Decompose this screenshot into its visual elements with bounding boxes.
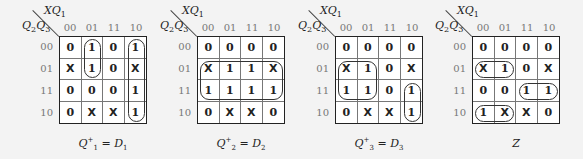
- kmap-cell: 0: [241, 37, 263, 59]
- kmap-cell: 1: [538, 80, 560, 102]
- kmap-grid: 0101X10X00010XX1: [59, 36, 147, 124]
- row-label: 10: [33, 107, 53, 118]
- kmap-cell: 0: [60, 102, 82, 124]
- kmap-cell: 0: [263, 102, 285, 124]
- row-variable-label: Q2Q3: [298, 19, 326, 34]
- column-label: 00: [472, 22, 494, 33]
- kmap-grid: 0000X11X11110XX0: [197, 36, 285, 124]
- kmap-cell: 0: [60, 37, 82, 59]
- kmap-caption: Q+1 = D1: [53, 136, 153, 152]
- column-variable-label: XQ1: [44, 4, 66, 19]
- kmap-cell: X: [336, 59, 358, 81]
- kmap-cell: 0: [516, 37, 538, 59]
- kmap-cell: X: [495, 102, 517, 124]
- column-label: 00: [335, 22, 357, 33]
- row-label: 01: [309, 63, 329, 74]
- kmap-cell: 0: [379, 59, 401, 81]
- row-label: 10: [309, 107, 329, 118]
- kmap-cell: 1: [263, 80, 285, 102]
- column-label: 11: [379, 22, 401, 33]
- kmap-cell: 1: [358, 80, 380, 102]
- kmap-cell: 1: [125, 80, 147, 102]
- kmap-cell: 1: [401, 102, 423, 124]
- kmap-cell: X: [220, 102, 242, 124]
- column-label: 01: [219, 22, 241, 33]
- kmap-cell: X: [538, 59, 560, 81]
- column-label: 11: [241, 22, 263, 33]
- kmap-cell: 0: [60, 80, 82, 102]
- kmap-cell: X: [60, 59, 82, 81]
- kmap-cell: 0: [336, 102, 358, 124]
- kmap-cell: 0: [198, 102, 220, 124]
- kmap-cell: 0: [495, 80, 517, 102]
- kmap-cell: 0: [495, 37, 517, 59]
- kmap-caption: Q+2 = D2: [191, 136, 291, 152]
- kmap-cell: X: [473, 59, 495, 81]
- kmap-cell: X: [263, 59, 285, 81]
- kmap-caption: Z: [466, 136, 566, 152]
- kmap-cell: X: [241, 102, 263, 124]
- row-label: 11: [309, 85, 329, 96]
- column-label: 00: [59, 22, 81, 33]
- kmap-cell: 0: [538, 102, 560, 124]
- column-label: 01: [494, 22, 516, 33]
- kmap-cell: 1: [336, 80, 358, 102]
- kmap-cell: 1: [125, 102, 147, 124]
- kmap-cell: 1: [198, 80, 220, 102]
- kmap-cell: 1: [401, 80, 423, 102]
- row-variable-label: Q2Q3: [160, 19, 188, 34]
- kmap-cell: 1: [516, 80, 538, 102]
- kmap-cell: 0: [358, 37, 380, 59]
- kmap-cell: 1: [220, 59, 242, 81]
- kmap-cell: 1: [241, 80, 263, 102]
- column-variable-label: XQ1: [457, 4, 479, 19]
- column-variable-label: XQ1: [320, 4, 342, 19]
- kmap-caption: Q+3 = D3: [329, 136, 429, 152]
- kmap-cell: 0: [336, 37, 358, 59]
- row-label: 01: [446, 63, 466, 74]
- column-label: 01: [357, 22, 379, 33]
- kmap-cell: 1: [82, 59, 104, 81]
- kmap-cell: 0: [516, 59, 538, 81]
- row-label: 01: [33, 63, 53, 74]
- kmap-cell: 1: [495, 59, 517, 81]
- row-label: 10: [446, 107, 466, 118]
- row-label: 11: [33, 85, 53, 96]
- kmap-cell: X: [516, 102, 538, 124]
- kmap-cell: X: [401, 59, 423, 81]
- column-label: 00: [197, 22, 219, 33]
- column-label: 01: [81, 22, 103, 33]
- kmap-cell: 0: [379, 80, 401, 102]
- kmap-cell: 0: [263, 37, 285, 59]
- row-label: 00: [309, 41, 329, 52]
- row-label: 01: [171, 63, 191, 74]
- kmap-cell: 0: [473, 80, 495, 102]
- column-variable-label: XQ1: [182, 4, 204, 19]
- kmap-cell: 0: [379, 37, 401, 59]
- row-label: 11: [171, 85, 191, 96]
- kmap-cell: 1: [220, 80, 242, 102]
- column-label: 11: [103, 22, 125, 33]
- kmap-cell: 0: [401, 37, 423, 59]
- kmap-cell: 0: [82, 80, 104, 102]
- kmap-grid: 0000X10X00111XX0: [472, 36, 560, 124]
- row-variable-label: Q2Q3: [435, 19, 463, 34]
- column-label: 10: [401, 22, 423, 33]
- kmap-cell: 1: [241, 59, 263, 81]
- kmap-cell: X: [82, 102, 104, 124]
- row-label: 00: [446, 41, 466, 52]
- kmap-cell: X: [103, 102, 125, 124]
- row-label: 11: [446, 85, 466, 96]
- kmap-cell: 1: [358, 59, 380, 81]
- kmap-cell: 0: [198, 37, 220, 59]
- kmap-cell: 0: [538, 37, 560, 59]
- kmap-cell: 1: [82, 37, 104, 59]
- row-label: 00: [171, 41, 191, 52]
- kmap-cell: 0: [103, 37, 125, 59]
- kmap-cell: 0: [103, 59, 125, 81]
- column-label: 10: [125, 22, 147, 33]
- column-label: 11: [516, 22, 538, 33]
- row-variable-label: Q2Q3: [22, 19, 50, 34]
- kmap-cell: X: [125, 59, 147, 81]
- kmap-cell: 0: [220, 37, 242, 59]
